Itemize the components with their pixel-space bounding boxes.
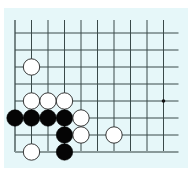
black-stone <box>56 144 72 160</box>
white-stone <box>106 127 122 143</box>
go-board-canvas <box>0 0 195 170</box>
black-stone <box>56 127 72 143</box>
white-stone <box>73 110 89 126</box>
star-points <box>162 99 166 103</box>
star-point <box>162 99 166 103</box>
black-stone <box>23 110 39 126</box>
white-stone <box>23 144 39 160</box>
go-board <box>0 0 195 170</box>
black-stone <box>7 110 23 126</box>
white-stone <box>40 93 56 109</box>
white-stone <box>56 93 72 109</box>
black-stone <box>56 110 72 126</box>
white-stone <box>23 59 39 75</box>
white-stone <box>73 127 89 143</box>
black-stone <box>40 110 56 126</box>
white-stone <box>23 93 39 109</box>
